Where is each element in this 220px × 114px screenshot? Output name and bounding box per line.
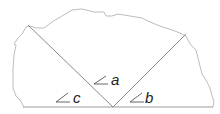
- angle-label-b: b: [145, 89, 153, 106]
- angle-symbol-b-icon: [130, 93, 144, 102]
- angle-c: c: [56, 89, 81, 106]
- left-ray: [28, 25, 113, 107]
- angle-symbol-c-icon: [56, 93, 70, 102]
- torn-paper-outline: [13, 9, 214, 107]
- angle-label-a: a: [111, 71, 119, 88]
- angle-symbol-a-icon: [94, 76, 108, 84]
- angle-b: b: [130, 89, 153, 106]
- angle-diagram: a b c: [0, 0, 220, 114]
- angle-a: a: [94, 71, 119, 88]
- angle-label-c: c: [73, 89, 81, 106]
